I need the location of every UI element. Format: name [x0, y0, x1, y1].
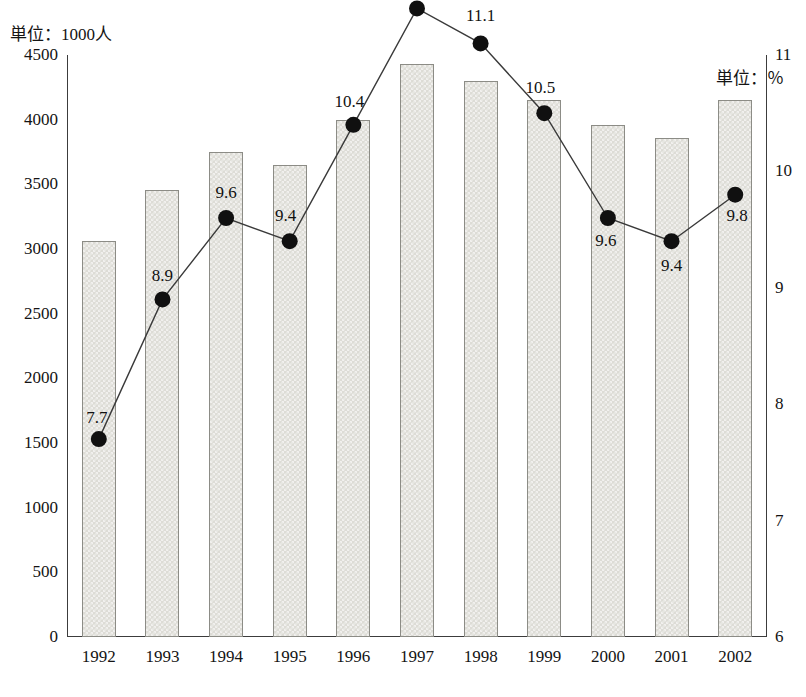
x-axis-tick-2002: 2002 — [718, 648, 752, 665]
right-axis-tick-11: 11 — [775, 45, 801, 65]
bar-1996 — [336, 120, 370, 637]
left-axis-line — [67, 55, 68, 637]
bar-2001 — [655, 138, 689, 637]
x-axis-tick-2000: 2000 — [591, 648, 625, 665]
right-axis-line — [766, 55, 767, 637]
left-axis-tick-1500: 1500 — [0, 433, 58, 453]
point-label-1999: 10.5 — [525, 79, 555, 96]
bar-1998 — [464, 81, 498, 637]
point-label-1995: 9.4 — [275, 207, 296, 224]
point-label-1993: 8.9 — [152, 267, 173, 284]
cutoff-title-strip — [0, 0, 806, 7]
left-axis-tick-2000: 2000 — [0, 368, 58, 388]
point-label-2002: 9.8 — [727, 207, 748, 224]
x-axis-tick-2001: 2001 — [655, 648, 689, 665]
chart-figure: 単位：1000人 単位：％ 05001000150020002500300035… — [0, 0, 806, 697]
marker-1998 — [473, 35, 489, 51]
left-axis-tick-2500: 2500 — [0, 304, 58, 324]
x-axis-tick-1996: 1996 — [336, 648, 370, 665]
bar-2000 — [591, 125, 625, 637]
bar-2002 — [718, 100, 752, 637]
point-label-1996: 10.4 — [334, 93, 364, 110]
left-axis-tick-4000: 4000 — [0, 110, 58, 130]
right-axis-tick-9: 9 — [775, 278, 801, 298]
bar-1999 — [527, 100, 561, 637]
x-axis-tick-1999: 1999 — [527, 648, 561, 665]
x-axis-tick-1998: 1998 — [464, 648, 498, 665]
right-axis-tick-8: 8 — [775, 394, 801, 414]
x-axis-tick-1992: 1992 — [82, 648, 116, 665]
left-axis-tick-3500: 3500 — [0, 174, 58, 194]
left-axis-tick-4500: 4500 — [0, 45, 58, 65]
right-axis-tick-10: 10 — [775, 161, 801, 181]
point-label-2001: 9.4 — [661, 257, 682, 274]
right-axis-tick-6: 6 — [775, 627, 801, 647]
left-axis-tick-500: 500 — [0, 562, 58, 582]
point-label-1998: 11.1 — [466, 7, 495, 24]
bar-1992 — [82, 241, 116, 637]
left-axis-unit-label: 単位：1000人 — [10, 26, 112, 43]
left-axis-tick-1000: 1000 — [0, 498, 58, 518]
x-axis-tick-1997: 1997 — [400, 648, 434, 665]
point-label-2000: 9.6 — [595, 232, 616, 249]
bar-1995 — [273, 165, 307, 637]
point-label-1992: 7.7 — [86, 409, 107, 426]
plot-area — [67, 55, 767, 637]
x-axis-tick-1993: 1993 — [145, 648, 179, 665]
x-axis-tick-1994: 1994 — [209, 648, 243, 665]
left-axis-tick-3000: 3000 — [0, 239, 58, 259]
x-axis-tick-1995: 1995 — [273, 648, 307, 665]
right-axis-tick-7: 7 — [775, 511, 801, 531]
left-axis-tick-0: 0 — [0, 627, 58, 647]
point-label-1994: 9.6 — [215, 184, 236, 201]
bar-1993 — [145, 190, 179, 637]
bar-1994 — [209, 152, 243, 637]
bar-1997 — [400, 64, 434, 637]
